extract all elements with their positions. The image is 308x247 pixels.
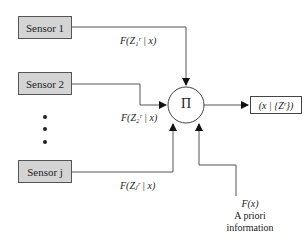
ellipsis-dot [43,115,47,119]
likelihood-label-j: F(Zⱼʳ | x) [120,180,155,191]
prior-line-2: information [212,222,288,234]
prior-function: F(x) [212,198,288,210]
ellipsis-dot [43,127,47,131]
sensor-2-box: Sensor 2 [18,72,72,95]
prior-line-1: A priori [212,210,288,222]
sensor-2-label: Sensor 2 [26,78,64,90]
likelihood-label-2: F(Z₂ʳ | x) [121,112,157,123]
product-symbol: Π [168,96,204,112]
sensor-j-label: Sensor j [27,166,63,178]
ellipsis-dot [43,140,47,144]
sensor-1-box: Sensor 1 [18,16,72,39]
sensor-j-box: Sensor j [18,160,72,183]
likelihood-label-1: F(Z₁ʳ | x) [120,35,156,46]
posterior-output-box: (x | {Zʳ}) [250,96,302,114]
posterior-output-label: (x | {Zʳ}) [259,100,294,111]
sensor-1-label: Sensor 1 [26,22,64,34]
prior-information: F(x) A priori information [212,198,288,234]
